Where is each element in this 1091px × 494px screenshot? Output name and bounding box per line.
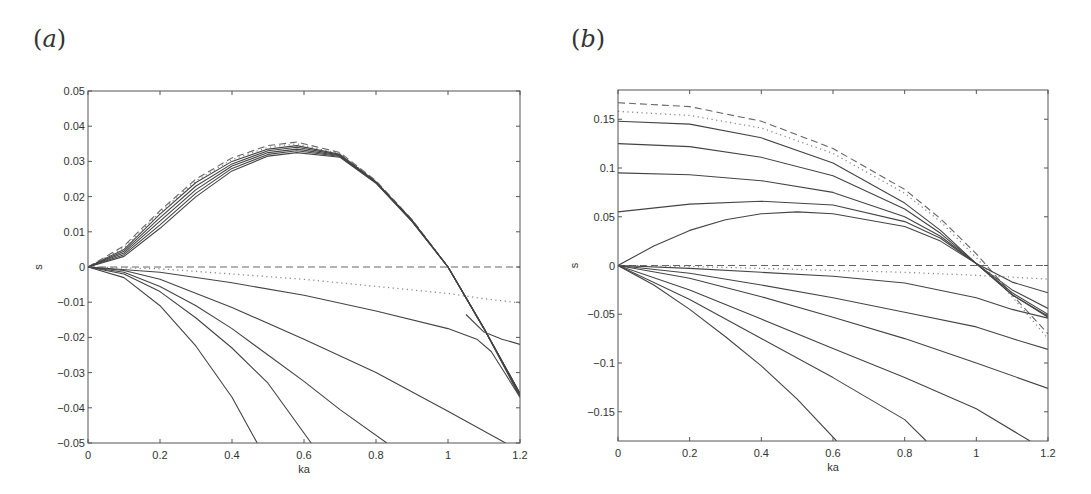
x-tick-label: 0.6 xyxy=(825,447,840,459)
y-tick-label: 0.02 xyxy=(64,191,85,203)
series-lower-solid-2 xyxy=(618,266,1048,350)
series-lower-solid-3 xyxy=(618,266,1048,389)
series-upper-solid-3 xyxy=(618,173,1048,314)
y-tick-label: 0 xyxy=(609,260,615,272)
y-tick-label: −0.04 xyxy=(57,402,85,414)
figure-canvas: 00.20.40.60.811.20.050.040.030.020.010−0… xyxy=(0,0,1091,494)
x-tick-label: 0.6 xyxy=(296,449,311,461)
series-lower-solid-1 xyxy=(88,267,520,397)
series-upper-solid-2 xyxy=(88,147,520,393)
x-tick-label: 1.2 xyxy=(512,449,527,461)
series-upper-dashed xyxy=(88,142,520,394)
y-tick-label: 0.03 xyxy=(64,155,85,167)
x-tick-label: 1.2 xyxy=(1040,447,1055,459)
series-lower-solid-4 xyxy=(618,266,1030,442)
series-lower-solid-1 xyxy=(618,266,1048,319)
series-upper-dotted xyxy=(88,144,520,394)
y-tick-label: −0.01 xyxy=(57,296,85,308)
chart-panel-a: 00.20.40.60.811.20.050.040.030.020.010−0… xyxy=(32,85,528,475)
series-upper-solid-1 xyxy=(88,146,520,394)
y-axis-label: s xyxy=(568,262,580,268)
y-tick-label: 0.01 xyxy=(64,226,85,238)
series-lower-solid-4 xyxy=(88,267,311,443)
series-lower-solid-2 xyxy=(88,267,506,443)
y-tick-label: 0.05 xyxy=(594,211,615,223)
x-axis-label: ka xyxy=(827,461,840,473)
chart-panel-b: 00.20.40.60.811.20.150.10.050−0.05−0.1−0… xyxy=(568,90,1056,473)
series-group xyxy=(618,103,1048,441)
y-tick-label: −0.02 xyxy=(57,331,85,343)
series-upper-solid-5 xyxy=(618,212,1048,293)
x-tick-label: 0.8 xyxy=(897,447,912,459)
series-lower-solid-6 xyxy=(618,266,837,442)
y-tick-label: 0.15 xyxy=(594,113,615,125)
series-upper-solid-2 xyxy=(618,144,1048,317)
y-axis-label: s xyxy=(32,264,44,270)
x-tick-label: 0.2 xyxy=(682,447,697,459)
x-tick-label: 0.4 xyxy=(754,447,769,459)
series-lower-dotted xyxy=(88,267,520,303)
series-upper-solid-5 xyxy=(88,153,520,398)
x-tick-label: 1 xyxy=(973,447,979,459)
x-tick-label: 0.2 xyxy=(152,449,167,461)
x-tick-label: 0 xyxy=(85,449,91,461)
x-tick-label: 0.4 xyxy=(224,449,239,461)
series-group xyxy=(88,142,520,443)
x-tick-label: 0.8 xyxy=(368,449,383,461)
y-tick-label: −0.05 xyxy=(587,308,615,320)
series-lower-solid-3 xyxy=(88,267,387,443)
y-tick-label: −0.03 xyxy=(57,367,85,379)
y-tick-label: 0 xyxy=(79,261,85,273)
x-tick-label: 0 xyxy=(615,447,621,459)
x-tick-label: 1 xyxy=(445,449,451,461)
series-upper-solid-4 xyxy=(618,201,1048,308)
series-upper-solid-4 xyxy=(88,151,520,396)
y-tick-label: 0.04 xyxy=(64,120,85,132)
series-upper-dashed xyxy=(618,103,1048,334)
series-lower-solid-1b xyxy=(466,315,520,345)
y-tick-label: −0.15 xyxy=(587,406,615,418)
y-tick-label: 0.1 xyxy=(600,162,615,174)
y-tick-label: 0.05 xyxy=(64,85,85,97)
x-axis-label: ka xyxy=(298,463,311,475)
y-tick-label: −0.1 xyxy=(593,357,615,369)
y-tick-label: −0.05 xyxy=(57,437,85,449)
